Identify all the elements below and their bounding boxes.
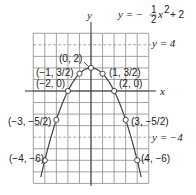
label-1: (1, 3/2) — [109, 67, 141, 78]
svg-text:x: x — [157, 8, 163, 20]
x-axis-label: x — [159, 85, 165, 97]
data-point — [112, 88, 117, 93]
data-point — [100, 71, 105, 76]
label-vertex: (0, 2) — [59, 53, 82, 64]
data-point — [135, 158, 140, 163]
data-point — [123, 117, 128, 122]
label-y4: y = 4 — [151, 37, 176, 49]
data-point — [77, 71, 82, 76]
parabola-chart: x y y = − 1 2 x 2 + 2 (0, 2) (−1, 3/2) (… — [0, 0, 196, 195]
label-ym4: y = −4 — [151, 131, 183, 143]
vertex-arrow — [84, 62, 89, 67]
label-3: (3, −5/2) — [131, 116, 169, 127]
label-4: (4, −6) — [141, 153, 170, 164]
svg-text:2: 2 — [151, 14, 157, 25]
data-point — [65, 88, 70, 93]
svg-text:+ 2: + 2 — [170, 9, 185, 20]
data-point — [54, 117, 59, 122]
data-point — [88, 65, 93, 70]
label-m4: (−4, −6) — [9, 153, 44, 164]
equation-label: y = − 1 2 x 2 + 2 — [117, 4, 185, 25]
label-m3: (−3, −5/2) — [8, 116, 51, 127]
svg-text:y = −: y = − — [117, 8, 143, 20]
y-axis-label: y — [86, 9, 92, 21]
label-m1: (−1, 3/2) — [36, 67, 74, 78]
label-m2: (−2, 0) — [36, 78, 65, 89]
label-2: (2, 0) — [119, 78, 142, 89]
